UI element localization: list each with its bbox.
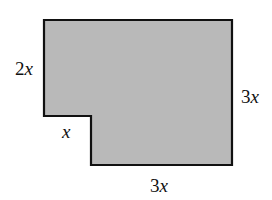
notch-label: x bbox=[61, 121, 71, 142]
right-side-label: 3x bbox=[241, 86, 260, 107]
left-side-var: x bbox=[24, 58, 34, 79]
right-side-coef: 3 bbox=[241, 86, 251, 107]
shaded-l-shape bbox=[44, 20, 232, 165]
notch-var: x bbox=[61, 121, 71, 142]
left-side-coef: 2 bbox=[15, 58, 25, 79]
l-shape-diagram: 2x 3x x 3x bbox=[0, 0, 272, 200]
left-side-label: 2x bbox=[15, 58, 34, 79]
bottom-side-coef: 3 bbox=[150, 175, 160, 196]
bottom-side-label: 3x bbox=[150, 175, 169, 196]
bottom-side-var: x bbox=[159, 175, 169, 196]
right-side-var: x bbox=[250, 86, 260, 107]
